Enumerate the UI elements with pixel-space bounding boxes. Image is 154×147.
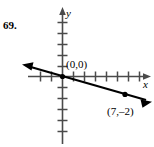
- origin-point-label: (0,0): [66, 58, 87, 71]
- x-axis-label: x: [142, 78, 148, 90]
- second-point-marker: [122, 92, 127, 97]
- y-axis-label: y: [65, 7, 71, 19]
- origin-point-marker: [60, 74, 65, 79]
- coordinate-plane-graph: (0,0) (7,–2) x y: [0, 0, 154, 147]
- line-right-arrowhead: [141, 99, 153, 107]
- y-axis-arrowhead: [59, 7, 66, 15]
- math-figure: 69.: [0, 0, 154, 147]
- line-left-arrowhead: [22, 62, 34, 70]
- second-point-label: (7,–2): [107, 105, 134, 118]
